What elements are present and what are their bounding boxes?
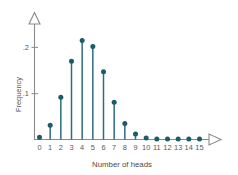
x-tick-label: 3 [69,143,73,152]
data-point [69,59,74,64]
x-tick-label: 8 [123,143,127,152]
x-tick-label: 4 [80,143,84,152]
x-tick-labels-layer: 0123456789101112131415 [37,143,203,152]
data-point [80,38,85,43]
x-tick-label: 1 [48,143,52,152]
data-point [90,44,95,49]
data-point [122,121,127,126]
data-point [58,95,63,100]
x-tick-label: 9 [133,143,137,152]
data-point [176,137,181,142]
y-tick-label-1: .2 [23,43,29,52]
y-axis-title: Frequency [14,77,23,112]
x-tick-label: 0 [37,143,41,152]
data-point [197,137,202,142]
frequency-stem-plot: .1 .2 Frequency 0123456789101112131415 N… [0,0,238,175]
data-point [154,137,159,142]
x-tick-label: 11 [153,143,161,152]
x-tick-label: 14 [185,143,193,152]
data-point [133,131,138,136]
x-tick-label: 10 [142,143,150,152]
data-series-layer [37,38,202,142]
chart-container: .1 .2 Frequency 0123456789101112131415 N… [0,0,238,175]
data-point [112,100,117,105]
x-tick-label: 13 [174,143,182,152]
x-tick-label: 5 [91,143,95,152]
y-axis-arrow-icon [29,13,40,25]
data-point [101,69,106,74]
x-tick-label: 15 [195,143,203,152]
data-point [144,136,149,141]
x-tick-label: 2 [59,143,63,152]
data-point [186,137,191,142]
y-tick-label-0: .1 [23,89,29,98]
x-axis-title: Number of heads [92,160,152,169]
x-tick-label: 7 [112,143,116,152]
data-point [165,137,170,142]
data-point [48,123,53,128]
data-point [37,135,42,140]
x-tick-label: 12 [163,143,171,152]
x-tick-label: 6 [101,143,105,152]
x-axis-arrow-icon [209,134,221,145]
